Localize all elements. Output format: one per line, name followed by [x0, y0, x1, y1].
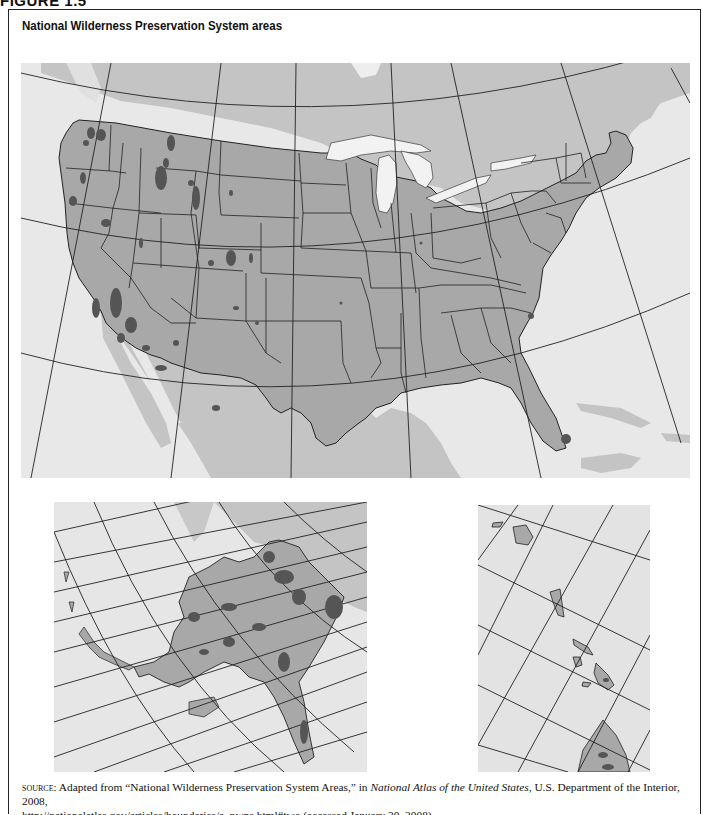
map-contiguous-us-svg [21, 63, 690, 478]
hawaiian-islands [492, 522, 630, 772]
source-url[interactable]: http://nationalatlas.gov/articles/bounda… [22, 809, 432, 815]
island-kahoolawe [582, 682, 591, 687]
russia-land [174, 502, 214, 542]
source-text-1: Adapted from “National Wilderness Preser… [57, 781, 371, 793]
map-alaska-svg [54, 502, 367, 772]
island-hawaii [578, 720, 630, 772]
aleutian-islands [64, 572, 134, 670]
figure-title: National Wilderness Preservation System … [22, 19, 282, 33]
island-niihau [492, 522, 503, 527]
kodiak-island [189, 697, 219, 717]
map-alaska-inset [54, 502, 367, 772]
map-hawaii-inset [478, 505, 650, 772]
source-citation: source: Adapted from “National Wildernes… [22, 780, 692, 815]
map-contiguous-us [21, 63, 690, 478]
map-hawaii-svg [478, 505, 650, 772]
graticule [478, 505, 650, 772]
island-kauai [513, 525, 533, 545]
source-prefix: source: [22, 781, 57, 793]
island-maui [594, 663, 614, 690]
figure-label: FIGURE 1.5 [0, 0, 87, 9]
source-publication: National Atlas of the United States [370, 781, 528, 793]
